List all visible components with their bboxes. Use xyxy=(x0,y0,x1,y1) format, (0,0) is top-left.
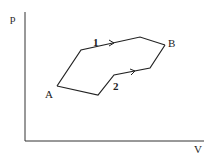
x-axis-label: V xyxy=(194,143,202,155)
y-axis-label: p xyxy=(10,12,16,24)
path-2 xyxy=(57,45,165,95)
pv-diagram: p V A B 1 2 xyxy=(0,0,214,160)
point-b-label: B xyxy=(168,37,175,49)
path-2-label: 2 xyxy=(113,80,119,92)
path-1-label: 1 xyxy=(93,36,99,48)
point-a-label: A xyxy=(45,88,53,100)
